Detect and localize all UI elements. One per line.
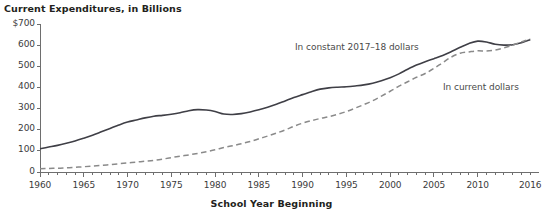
series-line-constant-dollars (40, 40, 530, 149)
chart-container: Current Expenditures, in Billions 010020… (0, 0, 543, 217)
data-series-group (40, 39, 530, 169)
axis-tick-marks (37, 24, 531, 177)
series-label-constant-dollars: In constant 2017–18 dollars (295, 42, 419, 52)
x-axis-title: School Year Beginning (0, 198, 543, 209)
plot-area (0, 0, 543, 217)
series-line-current-dollars (40, 39, 530, 169)
series-label-current-dollars: In current dollars (443, 82, 519, 92)
